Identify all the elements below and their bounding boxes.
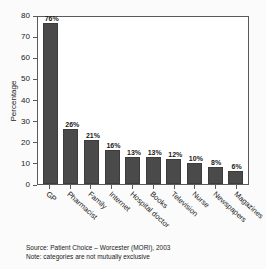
x-axis-label-slot: Family	[81, 189, 102, 241]
y-axis: Percentage 01020304050607080	[0, 16, 37, 185]
bar-value-label: 8%	[211, 159, 221, 166]
x-axis-labels: GPPharmacistFamilyInternetHospital docto…	[37, 189, 249, 241]
bar[interactable]	[146, 157, 161, 184]
x-axis-label-slot: Television	[164, 189, 185, 241]
bar[interactable]	[63, 129, 78, 184]
bar-series: 76%26%21%16%13%13%12%10%8%6%	[38, 17, 248, 184]
x-axis-label-slot: Hospital doctor	[122, 189, 143, 241]
y-axis-tick-label: 70	[21, 33, 33, 41]
bar-value-label: 16%	[106, 142, 120, 149]
bar-slot: 21%	[81, 17, 102, 184]
x-axis-label-slot: Newspapers	[205, 189, 226, 241]
y-axis-tick-label: 30	[21, 118, 33, 126]
bar[interactable]	[84, 140, 99, 184]
bar-slot: 10%	[184, 17, 205, 184]
y-axis-tick-label: 50	[21, 75, 33, 83]
bar-value-label: 13%	[127, 149, 141, 156]
footnote-note: Note: categories are not mutually exclus…	[26, 252, 256, 261]
plot-area: 76%26%21%16%13%13%12%10%8%6%	[37, 16, 249, 185]
y-axis-tick-label: 0	[26, 181, 33, 189]
bar-slot: 6%	[225, 17, 246, 184]
footnote-source: Source: Patient Choice – Worcester (MORI…	[26, 243, 256, 252]
bar[interactable]	[43, 23, 58, 184]
bar-value-label: 76%	[45, 15, 59, 22]
bar-value-label: 21%	[86, 132, 100, 139]
y-axis-tick-label: 20	[21, 139, 33, 147]
bar-slot: 76%	[40, 17, 61, 184]
bar[interactable]	[208, 167, 223, 184]
bar[interactable]	[166, 159, 181, 184]
bar-slot: 26%	[61, 17, 82, 184]
bar-value-label: 26%	[65, 121, 79, 128]
bar-value-label: 12%	[168, 151, 182, 158]
y-axis-tick-label: 40	[21, 97, 33, 105]
x-axis-label: Magazines	[232, 190, 265, 221]
footnote-block: Source: Patient Choice – Worcester (MORI…	[26, 243, 256, 262]
chart-figure: Percentage 01020304050607080 76%26%21%16…	[0, 0, 266, 269]
y-axis-tick-label: 80	[21, 12, 33, 20]
bar-slot: 13%	[143, 17, 164, 184]
bar[interactable]	[105, 150, 120, 184]
bar-value-label: 6%	[232, 163, 242, 170]
bar[interactable]	[228, 171, 243, 184]
y-axis-tick-label: 60	[21, 54, 33, 62]
y-axis-title: Percentage	[9, 46, 18, 156]
bar[interactable]	[187, 163, 202, 184]
x-axis-label-slot: GP	[39, 189, 60, 241]
bar-slot: 16%	[102, 17, 123, 184]
x-axis-label-slot: Pharmacist	[60, 189, 81, 241]
bar-value-label: 10%	[189, 155, 203, 162]
x-axis-label: GP	[45, 190, 59, 204]
x-axis-label-slot: Nurse	[185, 189, 206, 241]
bar-slot: 12%	[164, 17, 185, 184]
bar-value-label: 13%	[148, 149, 162, 156]
x-axis-label-slot: Magazines	[226, 189, 247, 241]
y-axis-tick-label: 10	[21, 160, 33, 168]
bar-slot: 8%	[205, 17, 226, 184]
bar-slot: 13%	[122, 17, 143, 184]
bar[interactable]	[125, 157, 140, 184]
x-axis-label-slot: Internet	[101, 189, 122, 241]
x-axis-label-slot: Books	[143, 189, 164, 241]
